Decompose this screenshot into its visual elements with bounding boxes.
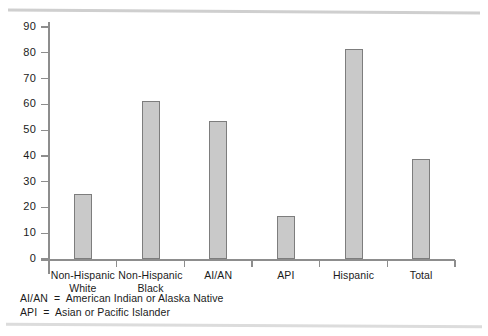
y-tick-label-60: 60 (0, 97, 36, 109)
y-tick-label-50: 50 (0, 123, 36, 135)
bar (345, 49, 363, 259)
y-tick-60 (41, 104, 48, 105)
footnote-api: API = Asian or Pacific Islander (20, 305, 224, 319)
category-label-line: Non-Hispanic (117, 269, 185, 282)
x-tick-5 (387, 260, 388, 267)
y-tick-80 (41, 52, 48, 53)
category-label: Hispanic (320, 269, 388, 282)
y-tick-label-0: 0 (0, 252, 36, 264)
y-tick-label-10: 10 (0, 226, 36, 238)
y-tick-0 (41, 258, 48, 259)
x-axis-line (41, 259, 455, 261)
category-label: API (252, 269, 320, 282)
y-tick-20 (41, 207, 48, 208)
category-label-line: Hispanic (320, 269, 388, 282)
category-label-line: Non-Hispanic (49, 269, 117, 282)
bar (209, 121, 227, 259)
y-tick-label-80: 80 (0, 46, 36, 58)
category-label-line: Total (387, 269, 455, 282)
category-label: Total (387, 269, 455, 282)
y-axis-line (48, 22, 50, 274)
footnote-ai-an: AI/AN = American Indian or Alaska Native (20, 291, 224, 305)
y-tick-label-30: 30 (0, 175, 36, 187)
x-tick-1 (116, 260, 117, 267)
y-tick-label-70: 70 (0, 72, 36, 84)
bar (277, 216, 295, 259)
x-tick-6 (454, 260, 455, 267)
y-tick-30 (41, 181, 48, 182)
y-tick-10 (41, 233, 48, 234)
y-tick-90 (41, 26, 48, 27)
bar (74, 194, 92, 259)
y-tick-label-40: 40 (0, 149, 36, 161)
bar-chart: 9080706050403020100 Non-HispanicWhiteNon… (0, 14, 488, 286)
x-tick-4 (319, 260, 320, 267)
category-label: AI/AN (184, 269, 252, 282)
chart-footnotes: AI/AN = American Indian or Alaska Native… (20, 291, 224, 319)
bar (412, 159, 430, 259)
y-tick-70 (41, 78, 48, 79)
y-tick-50 (41, 130, 48, 131)
x-tick-2 (184, 260, 185, 267)
x-tick-3 (251, 260, 252, 267)
category-label-line: AI/AN (184, 269, 252, 282)
y-tick-label-20: 20 (0, 200, 36, 212)
bottom-divider-rule (6, 323, 482, 328)
y-tick-label-90: 90 (0, 20, 36, 32)
y-tick-40 (41, 155, 48, 156)
category-label-line: API (252, 269, 320, 282)
bar (142, 101, 160, 259)
